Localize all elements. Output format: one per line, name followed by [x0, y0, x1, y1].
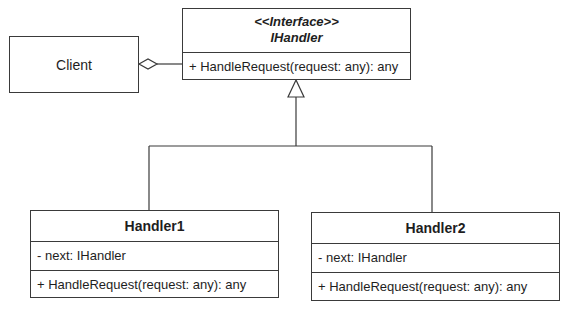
handler1-method: + HandleRequest(request: any): any — [31, 271, 278, 298]
realization-connector — [149, 80, 432, 212]
inheritance-triangle-icon — [288, 80, 304, 97]
handler2-name: Handler2 — [312, 213, 559, 243]
handler1-box[interactable]: Handler1 - next: IHandler + HandleReques… — [30, 210, 279, 298]
handler1-attribute: - next: IHandler — [31, 242, 278, 270]
handler1-name: Handler1 — [31, 211, 278, 241]
interface-stereotype: <<Interface>> — [183, 14, 410, 30]
client-name: Client — [56, 57, 92, 73]
handler1-attributes: - next: IHandler — [31, 241, 278, 270]
handler2-methods: + HandleRequest(request: any): any — [312, 272, 559, 301]
interface-name: IHandler — [183, 30, 410, 46]
interface-method: + HandleRequest(request: any): any — [183, 53, 410, 80]
interface-methods: + HandleRequest(request: any): any — [183, 52, 410, 80]
aggregation-diamond-icon — [139, 59, 157, 69]
interface-header: <<Interface>> IHandler — [183, 9, 410, 52]
aggregation-connector — [139, 59, 182, 69]
handler2-attributes: - next: IHandler — [312, 243, 559, 272]
client-box[interactable]: Client — [9, 36, 139, 93]
handler1-methods: + HandleRequest(request: any): any — [31, 270, 278, 298]
handler2-box[interactable]: Handler2 - next: IHandler + HandleReques… — [311, 212, 560, 301]
handler2-attribute: - next: IHandler — [312, 244, 559, 272]
interface-ihandler-box[interactable]: <<Interface>> IHandler + HandleRequest(r… — [182, 8, 411, 80]
handler2-method: + HandleRequest(request: any): any — [312, 273, 559, 301]
